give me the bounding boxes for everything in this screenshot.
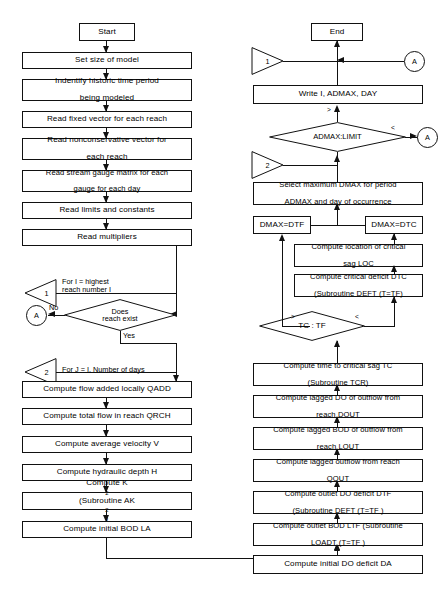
edge-connA-to-endline xyxy=(337,61,404,62)
arrowhead-up xyxy=(334,105,340,112)
line-1: Read nonconservative vector for xyxy=(25,136,189,145)
tctf-gt-text: > xyxy=(291,313,295,320)
line-2: sag LOC xyxy=(297,260,420,268)
connector-a-left: A xyxy=(26,305,47,326)
line-1: Compute lagged DO of outflow from xyxy=(256,394,420,402)
edge-decision-yes xyxy=(120,331,121,343)
process-compute-dout: Compute lagged DO of outflow from reach … xyxy=(253,395,423,418)
edge-tctf-less-horizontal xyxy=(364,326,395,327)
line-1: Indentify historic time period xyxy=(25,77,189,86)
terminal-end-label: End xyxy=(314,28,360,37)
process-dmax-dtc-label: DMAX=DTC xyxy=(368,221,420,230)
line-1: Select maximum DMAX for period xyxy=(256,181,420,189)
loop-1-text-line2: reach number I xyxy=(62,285,111,294)
edge-yes-horizontal xyxy=(120,343,177,344)
connector-a-top-label: A xyxy=(412,57,417,66)
edge-dmax-merge-bar xyxy=(311,225,365,226)
decision-tc-tf-label: TC : TF xyxy=(298,322,325,330)
process-write-results: Write I, ADMAX, DAY xyxy=(253,85,423,104)
arrowhead-up xyxy=(334,340,340,347)
admax-lt-text: < xyxy=(391,124,395,131)
arrowhead-up xyxy=(391,296,397,303)
line-1: Compute lagged BOD of outflow from xyxy=(256,426,420,434)
process-compute-depth-label: Compute hydraulic depth H xyxy=(25,468,189,477)
loop-1-line2: reach number I xyxy=(62,285,111,294)
decision-admax-limit: ADMAX:LIMIT xyxy=(269,122,406,152)
arrowhead-up xyxy=(391,233,397,240)
process-set-size-label: Set size of model xyxy=(25,56,189,65)
branch-label-tctf-greater: > xyxy=(291,313,295,320)
process-compute-da-label: Compute initial DO deficit DA xyxy=(256,560,420,569)
branch-label-admax-less: < xyxy=(391,124,395,131)
branch-label-no: No xyxy=(49,303,58,312)
process-compute-qout: Compute lagged outflow from reach QOUT xyxy=(253,459,423,482)
line-2: (Subroutine DEFT (T=TF) xyxy=(297,290,420,298)
loop-marker-1-right: 1 xyxy=(251,47,284,75)
admax-limit-text: ADMAX:LIMIT xyxy=(313,132,362,141)
process-compute-k2: Compute K2 (Subroutine AK2) xyxy=(22,492,192,510)
arrowhead-up xyxy=(334,155,340,162)
connector-a-mid-label: A xyxy=(425,133,430,142)
connector-a-mid: A xyxy=(417,127,438,148)
line-2: reach exist xyxy=(102,314,137,323)
arrowhead-up xyxy=(334,203,340,210)
line-2: gauge for each day xyxy=(25,185,189,193)
process-compute-dtc-label: Compute critical deficit DTC (Subroutine… xyxy=(297,273,420,298)
edge-loop2right-horizontal xyxy=(283,165,338,166)
process-read-multipliers: Read multipliers xyxy=(22,229,192,246)
edge-write-up xyxy=(337,71,338,85)
line-1: Read stream gauge matrix for each xyxy=(25,169,189,177)
arrowhead-right xyxy=(410,133,417,139)
line-2: being modeled xyxy=(25,94,189,103)
arrowhead-up xyxy=(334,544,340,551)
process-compute-velocity: Compute average velocity V xyxy=(22,436,192,453)
tc-tf-text: TC : TF xyxy=(298,321,325,330)
process-dmax-dtc: DMAX=DTC xyxy=(365,216,423,234)
k2-pre: Compute K xyxy=(25,479,189,488)
process-compute-bod-la-label: Compute initial BOD LA xyxy=(25,525,189,534)
process-read-fixed-vector-label: Read fixed vector for each reach xyxy=(25,115,189,124)
process-identify-period-label: Indentify historic time period being mod… xyxy=(25,77,189,103)
process-compute-ltf: Compute outlet BOD LTF (Subroutine LOADT… xyxy=(253,523,423,546)
process-compute-qadd: Compute flow added locally QADD xyxy=(22,381,192,398)
arrowhead-up xyxy=(334,512,340,519)
edge-bodla-down xyxy=(106,538,107,558)
process-compute-velocity-label: Compute average velocity V xyxy=(25,440,189,449)
line-1: Compute critical deficit DTC xyxy=(297,273,420,281)
decision-does-reach-exist: Does reach exist xyxy=(64,299,176,331)
branch-yes-text: Yes xyxy=(123,331,135,340)
process-compute-loc: Compute location of critical sag LOC xyxy=(294,244,423,267)
arrowhead-up xyxy=(334,480,340,487)
branch-label-tctf-less: < xyxy=(355,313,359,320)
decision-tc-tf: TC : TF xyxy=(259,311,365,341)
loop-2-text: For J = I, Number of days xyxy=(62,365,145,374)
edge-multipliers-down xyxy=(176,246,177,293)
process-compute-qrch: Compute total flow in reach QRCH xyxy=(22,408,192,425)
branch-label-yes: Yes xyxy=(123,331,135,340)
line-1: Compute lagged outflow from reach xyxy=(256,458,420,466)
flowchart-canvas: Start Set size of model Indentify histor… xyxy=(0,0,448,601)
process-dmax-dtf-label: DMAX=DTF xyxy=(256,221,308,230)
process-read-stream-gauge: Read stream gauge matrix for each gauge … xyxy=(22,170,192,192)
branch-no-text: No xyxy=(49,303,58,312)
edge-tctf-greater-up xyxy=(282,236,283,326)
terminal-end: End xyxy=(311,23,363,41)
loop-2-line1: For J = I, Number of days xyxy=(62,365,145,374)
process-identify-period: Indentify historic time period being mod… xyxy=(22,79,192,101)
line-1: Compute time to critical sag TC xyxy=(256,362,420,370)
process-read-multipliers-label: Read multipliers xyxy=(25,233,189,242)
admax-gt-text: > xyxy=(327,106,331,113)
decision-admax-limit-label: ADMAX:LIMIT xyxy=(313,133,362,141)
connector-a-top: A xyxy=(404,51,425,72)
process-write-results-label: Write I, ADMAX, DAY xyxy=(256,90,420,99)
decision-does-reach-exist-label: Does reach exist xyxy=(102,308,137,323)
terminal-start: Start xyxy=(79,23,135,41)
line-1: Compute outlet BOD LTF (Subroutine xyxy=(256,522,420,530)
process-compute-qadd-label: Compute flow added locally QADD xyxy=(25,385,189,394)
branch-label-admax-greater: > xyxy=(327,106,331,113)
process-compute-bod-la: Compute initial BOD LA xyxy=(22,521,192,538)
process-select-dmax: Select maximum DMAX for period ADMAX and… xyxy=(253,182,423,205)
process-read-stream-gauge-label: Read stream gauge matrix for each gauge … xyxy=(25,169,189,194)
line-2: each reach xyxy=(25,153,189,162)
process-compute-lout: Compute lagged BOD of outflow from reach… xyxy=(253,427,423,450)
